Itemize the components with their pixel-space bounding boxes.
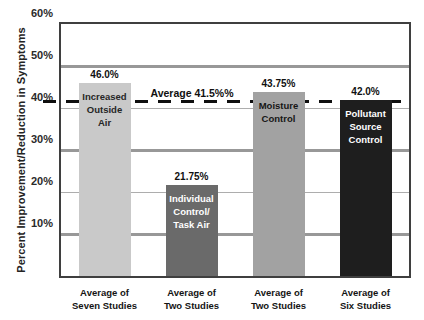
x-axis-label-line: Two Studies [164,299,219,312]
bar-1: 46.0%IncreasedOutsideAir [79,83,131,276]
bar-chart-figure: Percent Improvement/Reduction in Symptom… [0,0,424,320]
average-line-label: Average 41.5%% [150,87,233,99]
x-axis-label-line: Two Studies [251,299,306,312]
bar-3-inner-label: MoistureControl [251,99,307,125]
bar-4-text-line: Pollutant [338,107,394,120]
bar-4-text-line: Source [338,120,394,133]
y-tick-label-20: 20% [13,175,53,187]
x-axis-label-line: Average of [164,286,219,299]
bar-4-value-label: 42.0% [351,86,379,97]
bar-1-value-label: 46.0% [90,69,118,80]
bar-1-text-line: Air [77,116,133,129]
x-axis-label-line: Average of [72,286,137,299]
y-tick-label-30: 30% [13,133,53,145]
bar-4-text-line: Control [338,133,394,146]
bar-2-text-line: Task Air [164,218,220,231]
x-axis-label-4: Average ofSix Studies [340,286,391,312]
bar-3-text-line: Control [251,112,307,125]
bar-2-text-line: Individual [164,192,220,205]
bar-3: 43.75%MoistureControl [253,92,305,276]
x-axis-label-2: Average ofTwo Studies [164,286,219,312]
x-axis-label-3: Average ofTwo Studies [251,286,306,312]
y-tick-label-60: 60% [13,7,53,19]
x-axis-label-line: Seven Studies [72,299,137,312]
bar-3-value-label: 43.75% [262,78,296,89]
bar-1-text-line: Outside [77,103,133,116]
bar-1-inner-label: IncreasedOutsideAir [77,90,133,129]
bar-2-inner-label: IndividualControl/Task Air [164,192,220,231]
x-axis-label-1: Average ofSeven Studies [72,286,137,312]
bar-2-value-label: 21.75% [175,171,209,182]
y-tick-label-10: 10% [13,217,53,229]
bar-2-text-line: Control/ [164,205,220,218]
x-axis-label-line: Average of [340,286,391,299]
bar-2: 21.75%IndividualControl/Task Air [166,185,218,276]
bar-1-text-line: Increased [77,90,133,103]
gridline-50 [61,65,409,68]
x-axis-label-line: Six Studies [340,299,391,312]
y-tick-label-50: 50% [13,49,53,61]
bar-4-inner-label: PollutantSourceControl [338,107,394,146]
bar-4: 42.0%PollutantSourceControl [340,100,392,276]
bar-3-text-line: Moisture [251,99,307,112]
plot-area: Average 41.5%% 46.0%IncreasedOutsideAir2… [59,22,411,278]
x-axis-label-line: Average of [251,286,306,299]
y-axis-title-text: Percent Improvement/Reduction in Symptom… [15,27,27,273]
